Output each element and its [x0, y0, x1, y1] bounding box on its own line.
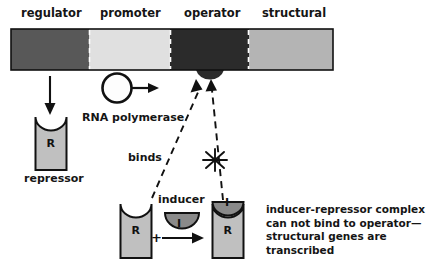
- gene-segment-operator: [170, 29, 249, 80]
- dashed-binding-arrow-icon: [152, 79, 203, 198]
- starburst-block-icon: [203, 149, 227, 171]
- repressor-symbol-free: R: [47, 137, 55, 150]
- plus-sign: +: [151, 230, 162, 245]
- gene-segment-structural: [249, 29, 333, 70]
- transcription-caption: inducer-repressor complex can not bind t…: [266, 203, 438, 258]
- gene-segment-regulator: [11, 29, 89, 70]
- dashed-blocked-arrow-icon: [206, 79, 224, 200]
- gene-bar: [11, 29, 333, 80]
- repressor-symbol-bottom-left: R: [132, 224, 140, 237]
- right-arrow-icon: [162, 233, 204, 244]
- repressor-caption: repressor: [24, 173, 84, 186]
- inducer-symbol-free: I: [177, 217, 181, 230]
- gene-segment-promoter: [89, 29, 170, 70]
- rna-polymerase-label: RNA polymerase: [82, 112, 184, 125]
- repressor-symbol-complex: R: [224, 224, 232, 237]
- down-arrow-icon: [45, 76, 56, 115]
- inducer-molecule-free: [165, 213, 199, 228]
- lac-operon-diagram: regulator promoter operator structural: [0, 0, 448, 277]
- inducer-label: inducer: [158, 194, 205, 207]
- binds-label: binds: [128, 152, 162, 165]
- rna-polymerase-icon: [103, 74, 160, 103]
- inducer-symbol-complex: I: [225, 196, 229, 209]
